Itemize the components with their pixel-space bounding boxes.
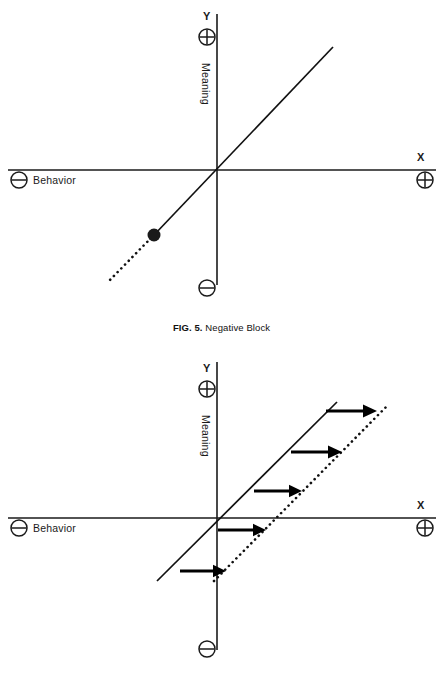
y-negative-symbol-icon [199,280,215,296]
x-axis-name-behavior: Behavior [33,523,76,534]
shift-arrow-3 [254,485,302,497]
x-negative-symbol-icon [11,172,27,188]
x-axis-label: X [417,152,425,163]
y-axis-name-meaning: Meaning [201,63,212,105]
y-axis-label: Y [203,11,211,22]
y-axis-name-meaning: Meaning [201,415,212,457]
shift-arrow-4 [218,524,266,536]
negative-block-plot [0,0,443,310]
caption-title: Negative Block [205,322,270,333]
figure-negative-block: Y X Meaning Behavior FIG. 5. Negative Bl… [0,0,443,340]
block-marker-dot [148,229,161,242]
y-axis-label: Y [203,363,211,374]
x-axis-name-behavior: Behavior [33,175,76,186]
figure-page: Y X Meaning Behavior FIG. 5. Negative Bl… [0,0,443,673]
shifted-line-dotted [214,404,389,581]
x-positive-symbol-icon [417,172,433,188]
positive-block-plot [0,350,443,673]
x-negative-symbol-icon [11,520,27,536]
y-negative-symbol-icon [199,641,215,657]
x-axis-label: X [417,500,425,511]
figure-positive-block: Y X Meaning Behavior [0,350,443,673]
relation-line-solid [154,47,333,235]
y-positive-symbol-icon [199,381,215,397]
shift-arrow-5 [180,565,226,577]
relation-line-dotted [107,238,151,283]
figure-caption: FIG. 5. Negative Block [0,322,443,333]
shift-arrow-2 [291,446,342,459]
x-positive-symbol-icon [417,520,433,536]
original-line-solid [157,402,337,581]
y-positive-symbol-icon [199,29,215,45]
caption-number: FIG. 5. [173,322,203,333]
